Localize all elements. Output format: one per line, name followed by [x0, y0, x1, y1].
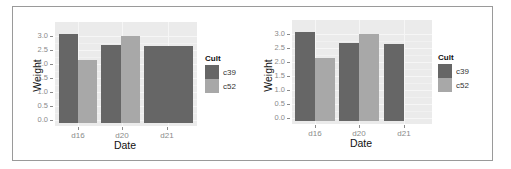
y-tick-mark: [50, 92, 53, 93]
legend-key-c39: [438, 64, 452, 78]
legend-label: c39: [223, 68, 236, 77]
y-tick-mark: [287, 104, 290, 105]
x-axis-label: Date: [341, 138, 381, 149]
legend-label: c52: [456, 81, 469, 90]
x-tick-mark: [404, 125, 405, 128]
chart-left: Weight 3.0 2.5 2.0 1.5 1.0 0.5 0.0: [0, 0, 255, 169]
y-tick-label: 0.5: [26, 102, 48, 110]
y-tick-mark: [50, 120, 53, 121]
y-tick-mark: [287, 90, 290, 91]
y-tick-label: 0.0: [26, 116, 48, 124]
legend-title: Cult: [438, 53, 454, 62]
bar-d20-c52: [121, 36, 140, 123]
bar-d16-c39: [59, 34, 78, 123]
y-tick-mark: [50, 64, 53, 65]
bar-d16-c52: [315, 58, 335, 121]
plot-panel: [292, 20, 432, 124]
x-axis-label: Date: [105, 140, 145, 151]
y-tick-mark: [50, 78, 53, 79]
y-tick-mark: [50, 50, 53, 51]
legend-key-c52: [438, 78, 452, 92]
x-tick-label: d16: [63, 131, 93, 140]
x-tick-label: d16: [300, 129, 330, 138]
bar-d21-c39: [144, 46, 193, 123]
y-tick-mark: [287, 48, 290, 49]
bar-d20-c52: [359, 34, 379, 121]
x-tick-mark: [122, 127, 123, 130]
legend-label: c52: [223, 82, 236, 91]
bar-d16-c52: [78, 60, 97, 123]
y-tick-label: 2.0: [263, 58, 285, 66]
x-tick-label: d21: [389, 129, 419, 138]
x-tick-mark: [78, 127, 79, 130]
y-tick-mark: [287, 34, 290, 35]
y-tick-mark: [287, 76, 290, 77]
x-tick-mark: [315, 125, 316, 128]
x-tick-mark: [359, 125, 360, 128]
x-tick-mark: [167, 127, 168, 130]
y-tick-mark: [287, 118, 290, 119]
y-tick-label: 0.5: [263, 100, 285, 108]
y-tick-mark: [50, 106, 53, 107]
y-tick-label: 3.0: [263, 30, 285, 38]
legend-label: c39: [456, 67, 469, 76]
bar-d20-c39: [101, 45, 121, 123]
y-tick-label: 1.0: [263, 86, 285, 94]
bar-d20-c39: [339, 43, 359, 121]
y-tick-label: 3.0: [26, 32, 48, 40]
y-tick-label: 0.0: [263, 114, 285, 122]
y-tick-label: 2.5: [26, 46, 48, 54]
y-tick-label: 1.5: [263, 72, 285, 80]
bar-d21-c39: [384, 44, 404, 121]
legend-key-c52: [205, 79, 219, 93]
y-tick-mark: [287, 62, 290, 63]
bar-d16-c39: [295, 32, 315, 121]
y-tick-mark: [50, 36, 53, 37]
x-tick-label: d21: [152, 131, 182, 140]
y-tick-label: 2.0: [26, 60, 48, 68]
chart-right: Weight 3.0 2.5 2.0 1.5 1.0 0.5 0.0: [255, 0, 511, 169]
y-tick-label: 1.5: [26, 74, 48, 82]
y-tick-label: 2.5: [263, 44, 285, 52]
plot-panel: [55, 22, 197, 126]
legend-key-c39: [205, 65, 219, 79]
legend-title: Cult: [205, 54, 221, 63]
y-tick-label: 1.0: [26, 88, 48, 96]
